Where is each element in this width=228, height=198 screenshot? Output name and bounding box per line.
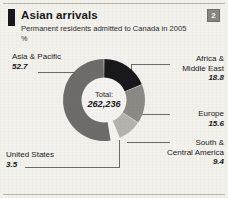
callout-south-central-america: South & Central America 9.4 — [167, 138, 224, 167]
callout-africa-middle-east: Africa & Middle East 18.8 — [182, 54, 224, 83]
chart-subtitle: Permanent residents admitted to Canada i… — [21, 24, 186, 34]
callout-united-states-name: United States — [6, 150, 54, 160]
callout-asia-pacific: Asia & Pacific 52.7 — [12, 52, 61, 71]
chart-title: Asian arrivals — [21, 9, 98, 22]
callout-africa-middle-east-value: 18.8 — [182, 73, 224, 83]
leader-line-us-vertical — [119, 140, 120, 168]
callout-europe: Europe 15.6 — [198, 109, 224, 128]
donut-hole — [82, 78, 127, 123]
callout-united-states: United States 3.5 — [6, 150, 54, 169]
figure-number-badge: 2 — [207, 9, 220, 22]
black-tick-marker-icon — [8, 9, 15, 26]
callout-europe-name: Europe — [198, 109, 224, 119]
donut-chart — [61, 57, 147, 143]
callout-south-central-america-value: 9.4 — [167, 157, 224, 167]
callout-south-central-america-name-1: South & — [167, 138, 224, 148]
chart-units-label: % — [21, 34, 27, 43]
callout-europe-value: 15.6 — [198, 119, 224, 129]
callout-africa-middle-east-name-1: Africa & — [182, 54, 224, 64]
chart-header: Asian arrivals Permanent residents admit… — [0, 0, 228, 52]
callout-africa-middle-east-name-2: Middle East — [182, 64, 224, 74]
donut-svg — [61, 57, 147, 143]
callout-asia-pacific-name: Asia & Pacific — [12, 52, 61, 62]
callout-asia-pacific-value: 52.7 — [12, 62, 61, 72]
callout-south-central-america-name-2: Central America — [167, 148, 224, 158]
callout-united-states-value: 3.5 — [6, 160, 54, 170]
chart-card: Asian arrivals Permanent residents admit… — [0, 0, 228, 198]
chart-body: Total: 262,236 Asia & Pacific 52.7 Unite… — [0, 50, 228, 198]
